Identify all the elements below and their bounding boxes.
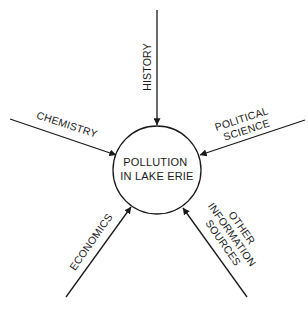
- concept-diagram: HISTORY CHEMISTRY POLITICAL SCIENCE ECON…: [0, 0, 308, 311]
- spoke-other-information-sources: OTHER INFORMATION SOURCES: [183, 193, 270, 297]
- label-other-information-sources: OTHER INFORMATION SOURCES: [196, 193, 270, 278]
- spoke-political-science: POLITICAL SCIENCE: [200, 103, 305, 155]
- spoke-chemistry: CHEMISTRY: [10, 109, 116, 155]
- spoke-history: HISTORY: [141, 10, 157, 125]
- hub-pollution-in-lake-erie: POLLUTION IN LAKE ERIE: [113, 126, 201, 214]
- label-political-science: POLITICAL SCIENCE: [213, 103, 276, 144]
- label-chemistry: CHEMISTRY: [35, 109, 99, 140]
- spoke-economics: ECONOMICS: [66, 207, 131, 297]
- label-history: HISTORY: [141, 43, 153, 91]
